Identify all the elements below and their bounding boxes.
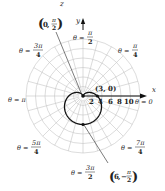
svg-text:): ) <box>57 16 63 31</box>
svg-text:2: 2 <box>127 176 131 183</box>
leader-6-neg-pi2 <box>84 125 108 163</box>
svg-text:π: π <box>87 29 93 37</box>
svg-text:7π: 7π <box>136 139 145 147</box>
x-label: x <box>152 86 156 94</box>
tick-4: 4 <box>98 97 103 106</box>
angle-label-3pi2: θ = 3π 2 <box>71 164 95 181</box>
svg-text:θ =: θ = <box>19 47 30 55</box>
label-3-0: (3, 0) <box>95 84 116 93</box>
svg-text:4: 4 <box>34 148 39 156</box>
svg-text:3π: 3π <box>34 42 43 50</box>
svg-text:3π: 3π <box>86 164 95 172</box>
svg-text:θ =: θ = <box>118 47 129 55</box>
svg-text:): ) <box>132 169 138 184</box>
svg-text:θ =: θ = <box>17 144 28 152</box>
angle-label-7pi4: θ = 7π 4 <box>121 139 145 156</box>
svg-text:θ =: θ = <box>121 144 132 152</box>
svg-text:2: 2 <box>88 173 93 181</box>
svg-text:4: 4 <box>138 148 143 156</box>
y-label: y <box>75 17 81 25</box>
svg-text:4: 4 <box>36 51 41 59</box>
svg-text:2: 2 <box>88 38 93 46</box>
radial-ticks: 2 4 6 8 10 <box>89 97 134 106</box>
z-label: z <box>59 0 64 8</box>
svg-text:5π: 5π <box>32 139 41 147</box>
label-6-neg-pi2: ( 6 , − π 2 ) <box>109 168 138 184</box>
svg-text:4: 4 <box>133 51 138 59</box>
svg-text:θ = π: θ = π <box>8 96 26 104</box>
angle-label-pi4: θ = π 4 <box>118 42 138 59</box>
label-0-pi2: ( 0 , π 2 ) <box>38 16 63 31</box>
angle-label-pi: θ = π <box>8 96 26 104</box>
svg-text:2: 2 <box>52 24 56 31</box>
svg-text:π: π <box>132 42 138 50</box>
svg-text:θ = 0: θ = 0 <box>135 98 153 106</box>
tick-2: 2 <box>89 97 94 106</box>
polar-diagram: z y x 2 4 6 8 10 (3, 0) ( 0 , π 2 ) ( 6 … <box>0 0 165 191</box>
angle-label-0: θ = 0 <box>135 98 153 106</box>
angle-label-3pi4: θ = 3π 4 <box>19 42 43 59</box>
angle-label-5pi4: θ = 5π 4 <box>17 139 41 156</box>
tick-8: 8 <box>117 97 122 106</box>
svg-text:,: , <box>47 20 49 29</box>
svg-text:θ =: θ = <box>71 169 82 177</box>
tick-6: 6 <box>108 97 113 106</box>
y-axis <box>81 18 85 30</box>
tick-10: 10 <box>124 97 134 106</box>
svg-text:θ =: θ = <box>73 34 84 42</box>
